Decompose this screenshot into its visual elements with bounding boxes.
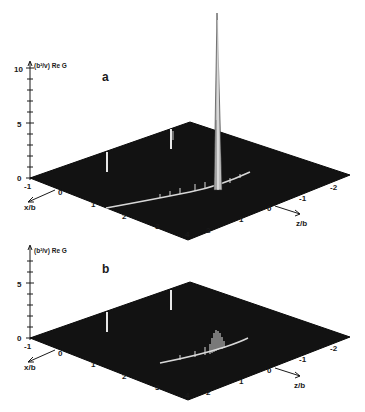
x-tick-neg1-a: -1	[24, 182, 32, 191]
z-axis-arrow-a	[275, 206, 300, 216]
figure: 10 5 0 (b²/v) Re G a	[0, 0, 365, 412]
panel-a: 10 5 0 (b²/v) Re G a	[14, 13, 350, 240]
z-axis-label-b: (b²/v) Re G	[34, 247, 67, 255]
x-tick-4-b: 4	[185, 391, 190, 400]
z-axis-a	[26, 61, 34, 180]
x-tick-1-a: 1	[91, 200, 96, 209]
x-tick-3-a: 3	[155, 222, 160, 231]
x-tick-neg1-b: -1	[24, 342, 32, 351]
y-tick-2-b: 2	[206, 388, 211, 397]
x-tick-3-b: 3	[155, 383, 160, 392]
y-tick-0-b: 0	[267, 366, 272, 375]
x-axis-label-b: x/b	[24, 363, 36, 372]
x-axis-arrow-a	[28, 190, 55, 202]
y-tick-neg1-a: -1	[299, 194, 307, 203]
z-tick-0-a: 0	[17, 174, 22, 183]
panel-label-a: a	[102, 70, 109, 84]
y-tick-2-a: 2	[206, 226, 211, 235]
y-tick-neg2-a: -2	[330, 183, 338, 192]
z-axis-label-a: (b²/v) Re G	[34, 62, 67, 70]
x-tick-2-b: 2	[122, 372, 127, 381]
x-axis-arrow-b	[28, 350, 55, 362]
y-tick-1-a: 1	[239, 215, 244, 224]
central-spike-a	[214, 13, 222, 190]
y-tick-0-a: 0	[267, 204, 272, 213]
z-tick-10-a: 10	[14, 65, 23, 74]
z-axis-label-b-b: z/b	[294, 381, 305, 390]
x-tick-0-b: 0	[58, 349, 63, 358]
panel-b: 5 0 (b²/v) Re G b x/b -1 0	[17, 245, 350, 400]
panel-label-b: b	[102, 262, 109, 276]
y-tick-neg2-b: -2	[330, 344, 338, 353]
y-tick-neg1-b: -1	[299, 355, 307, 364]
x-tick-1-b: 1	[91, 360, 96, 369]
z-axis-arrow-b	[275, 368, 300, 378]
x-tick-2-a: 2	[122, 212, 127, 221]
x-tick-0-a: 0	[58, 188, 63, 197]
x-tick-4-a: 4	[185, 230, 190, 239]
z-axis-b	[26, 245, 34, 340]
y-tick-1-b: 1	[239, 377, 244, 386]
z-tick-5-b: 5	[17, 280, 22, 289]
z-tick-0-b: 0	[17, 334, 22, 343]
x-axis-label-a: x/b	[24, 203, 36, 212]
z-tick-5-a: 5	[17, 120, 22, 129]
z-axis-label-b-a: z/b	[296, 219, 307, 228]
